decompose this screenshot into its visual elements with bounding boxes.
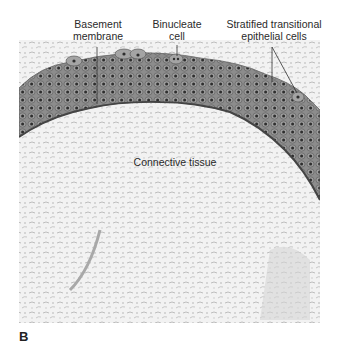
label-line: epithelial cells bbox=[219, 30, 329, 42]
label-line: Basement bbox=[68, 18, 128, 30]
label-line: Binucleate bbox=[147, 18, 207, 30]
label-basement-membrane: Basement membrane bbox=[68, 18, 128, 42]
label-line: cell bbox=[147, 30, 207, 42]
label-stratified-cells: Stratified transitional epithelial cells bbox=[219, 18, 329, 42]
label-line: Stratified transitional bbox=[219, 18, 329, 30]
histology-figure: Basement membrane Binucleate cell Strati… bbox=[0, 0, 339, 345]
label-line: membrane bbox=[68, 30, 128, 42]
label-connective-tissue: Connective tissue bbox=[115, 156, 235, 168]
tissue-illustration bbox=[0, 0, 339, 345]
label-binucleate-cell: Binucleate cell bbox=[147, 18, 207, 42]
panel-letter: B bbox=[19, 329, 28, 344]
